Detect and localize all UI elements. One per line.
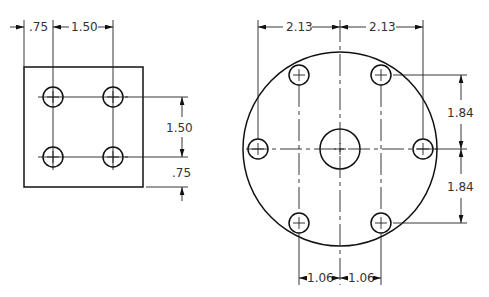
dim-top-spacing: 1.50 (71, 20, 98, 34)
hole-icon (371, 213, 391, 233)
dim-right-lower: 1.84 (447, 180, 474, 194)
right-top-dimensions: 2.13 2.13 (258, 20, 423, 34)
left-top-dimensions: .75 1.50 (10, 20, 113, 67)
dim-bottom-right: 1.06 (348, 271, 375, 285)
dim-right-spacing: 1.50 (166, 121, 193, 135)
dim-right-upper: 1.84 (447, 106, 474, 120)
dim-top-offset: .75 (29, 20, 48, 34)
dim-bottom-left: 1.06 (307, 271, 334, 285)
left-holes (43, 87, 123, 167)
dim-right-offset: .75 (172, 166, 191, 180)
left-view: .75 1.50 1.50 .75 (10, 20, 193, 201)
hole-icon (289, 213, 309, 233)
technical-drawing: .75 1.50 1.50 .75 (0, 0, 489, 297)
hole-icon (371, 65, 391, 85)
plate-outline (24, 67, 143, 187)
right-view: 2.13 2.13 1.84 1.84 1.06 1.06 (243, 20, 474, 285)
dim-top-left: 2.13 (286, 20, 313, 34)
hole-icon (289, 65, 309, 85)
left-right-dimensions: 1.50 .75 (125, 97, 193, 201)
dim-top-right: 2.13 (369, 20, 396, 34)
